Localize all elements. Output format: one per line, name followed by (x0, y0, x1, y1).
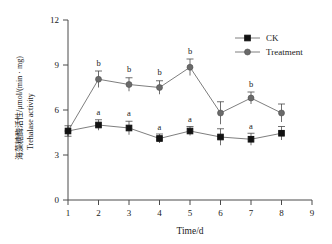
ck-point-d8 (279, 130, 285, 136)
treatment-sig-letter-d3: b (127, 64, 131, 74)
y-tick-label-9: 9 (55, 60, 60, 70)
x-tick-label-7: 7 (249, 208, 254, 218)
x-tick-label-4: 4 (157, 208, 162, 218)
treatment-sig-letter-d2: b (96, 58, 100, 68)
treatment-point-d4 (157, 85, 163, 91)
legend-marker-treatment (245, 49, 251, 55)
ck-point-d7 (248, 136, 254, 142)
x-tick-label-2: 2 (96, 208, 101, 218)
ck-point-d1 (65, 128, 71, 134)
y-axis-title-chinese: 海藻糖酶活性/μmol/(min · mg) (14, 56, 24, 160)
treatment-point-d8 (279, 110, 285, 116)
treatment-point-d6 (218, 110, 224, 116)
ck-point-d5 (187, 128, 193, 134)
x-axis-title: Time/d (176, 226, 203, 236)
x-tick-label-1: 1 (66, 208, 71, 218)
y-tick-label-3: 3 (55, 150, 60, 160)
x-tick-label-9: 9 (310, 208, 315, 218)
legend-marker-ck (245, 35, 251, 41)
trehalase-activity-line-chart: 0 3 6 9 12 1 2 3 4 5 6 7 8 9 (0, 0, 332, 244)
treatment-point-d5 (187, 64, 193, 70)
treatment-sig-letter-d4: b (157, 67, 161, 77)
ck-point-d2 (96, 122, 102, 128)
y-tick-label-0: 0 (55, 195, 60, 205)
x-tick-label-5: 5 (188, 208, 193, 218)
ck-sig-letter-d2: a (97, 107, 101, 117)
chart-figure: 0 3 6 9 12 1 2 3 4 5 6 7 8 9 (0, 0, 332, 244)
legend-label-treatment: Treatment (266, 47, 303, 57)
ck-point-d4 (157, 136, 163, 142)
x-tick-label-6: 6 (218, 208, 223, 218)
x-tick-label-8: 8 (279, 208, 284, 218)
ck-sig-letter-d5: a (188, 114, 192, 124)
ck-point-d6 (218, 134, 224, 140)
ck-sig-letter-d4: a (158, 122, 162, 132)
y-axis-title-english: Trehalase activity (26, 93, 35, 150)
legend-label-ck: CK (266, 33, 279, 43)
x-tick-label-3: 3 (127, 208, 132, 218)
treatment-point-d3 (126, 82, 132, 88)
ck-sig-letter-d3: a (127, 108, 131, 118)
treatment-sig-letter-d7: b (249, 79, 253, 89)
y-tick-label-12: 12 (50, 15, 59, 25)
treatment-point-d7 (248, 95, 254, 101)
ck-sig-letter-d7: a (249, 121, 253, 131)
y-tick-label-6: 6 (55, 105, 60, 115)
ck-point-d3 (126, 125, 132, 131)
treatment-sig-letter-d5: b (188, 46, 192, 56)
treatment-point-d2 (96, 76, 102, 82)
